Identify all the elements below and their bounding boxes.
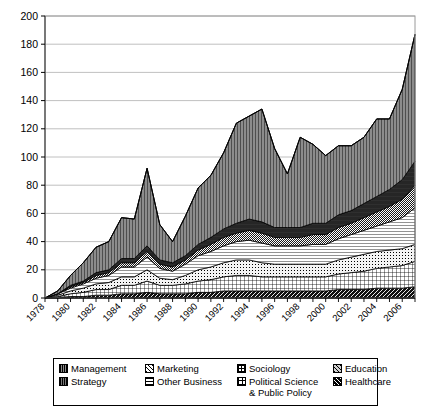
y-axis-tick-label: 140 — [20, 94, 38, 106]
x-axis-tick-label: 2006 — [381, 301, 404, 324]
legend-swatch-icon — [237, 364, 246, 373]
legend-item-political-science-public-policy[interactable]: Political Science & Public Policy — [237, 376, 333, 398]
legend-item-label: Marketing — [157, 363, 199, 374]
legend-swatch-icon — [145, 364, 154, 373]
x-axis-tick-label: 1998 — [279, 301, 302, 324]
y-axis-ticks: 020406080100120140160180200 — [20, 10, 45, 304]
legend-item-label: Political Science & Public Policy — [249, 376, 318, 398]
x-axis-tick-label: 2002 — [330, 301, 353, 324]
x-axis-tick-label: 1978 — [24, 301, 47, 324]
legend-swatch-icon — [333, 364, 342, 373]
legend-item-label: Healthcare — [345, 376, 391, 387]
legend-item-marketing[interactable]: Marketing — [145, 363, 237, 374]
x-axis-tick-label: 1992 — [202, 301, 225, 324]
x-axis-tick-label: 1986 — [126, 301, 149, 324]
x-axis-tick-label: 1980 — [49, 301, 72, 324]
legend-item-other-business[interactable]: Other Business — [145, 376, 237, 398]
x-axis-tick-label: 1988 — [151, 301, 174, 324]
legend-item-education[interactable]: Education — [333, 363, 419, 374]
legend-item-label: Other Business — [157, 376, 222, 387]
legend-item-label: Sociology — [249, 363, 290, 374]
legend-item-label: Education — [345, 363, 387, 374]
chart-canvas: 020406080100120140160180200 197819801982… — [0, 0, 433, 352]
x-axis-tick-label: 1994 — [228, 301, 251, 324]
y-axis-tick-label: 40 — [26, 235, 38, 247]
x-axis-tick-label: 1984 — [100, 301, 123, 324]
x-axis-labels: 1978198019821984198619881990199219941996… — [24, 301, 404, 324]
y-axis-tick-label: 200 — [20, 10, 38, 22]
y-axis-tick-label: 20 — [26, 263, 38, 275]
legend-swatch-icon — [145, 377, 154, 386]
y-axis-tick-label: 80 — [26, 179, 38, 191]
y-axis-tick-label: 60 — [26, 207, 38, 219]
legend-item-healthcare[interactable]: Healthcare — [333, 376, 419, 398]
x-axis-tick-label: 1982 — [75, 301, 98, 324]
legend-swatch-icon — [333, 377, 342, 386]
legend-item-management[interactable]: Management — [59, 363, 145, 374]
y-axis-tick-label: 160 — [20, 66, 38, 78]
legend-item-strategy[interactable]: Strategy — [59, 376, 145, 398]
y-axis-tick-label: 180 — [20, 38, 38, 50]
chart-legend: ManagementMarketingSociologyEducationStr… — [53, 358, 378, 406]
chart-page: 020406080100120140160180200 197819801982… — [0, 0, 433, 420]
legend-item-label: Management — [71, 363, 126, 374]
x-axis-tick-label: 2000 — [304, 301, 327, 324]
legend-swatch-icon — [59, 377, 68, 386]
x-axis-tick-label: 1996 — [253, 301, 276, 324]
x-axis-tick-label: 1990 — [177, 301, 200, 324]
legend-swatch-icon — [237, 377, 246, 386]
y-axis-tick-label: 100 — [20, 151, 38, 163]
y-axis-tick-label: 120 — [20, 122, 38, 134]
stacked-area-chart: 020406080100120140160180200 197819801982… — [0, 0, 433, 352]
legend-item-label: Strategy — [71, 376, 106, 387]
x-axis-tick-label: 2004 — [355, 301, 378, 324]
legend-swatch-icon — [59, 364, 68, 373]
legend-item-sociology[interactable]: Sociology — [237, 363, 333, 374]
